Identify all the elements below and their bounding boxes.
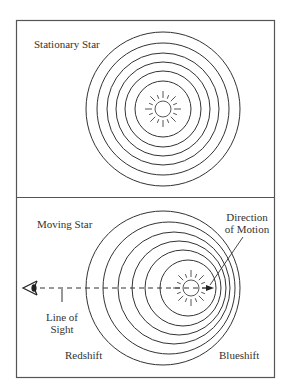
wavefront-circle — [125, 71, 201, 147]
wavefront-circle — [97, 43, 229, 175]
line-of-sight-label-line2: Sight — [40, 323, 84, 335]
redshift-label: Redshift — [65, 349, 102, 361]
line-of-sight-label-line1: Line of — [40, 311, 84, 323]
stationary-wavefronts — [86, 32, 240, 186]
line-of-sight-label: Line of Sight — [40, 311, 84, 335]
moving-wavefronts — [86, 211, 240, 365]
direction-label-line1: Direction — [222, 211, 272, 223]
moving-star-label: Moving Star — [37, 218, 92, 230]
blueshift-label: Blueshift — [219, 349, 259, 361]
star-icon — [145, 91, 181, 127]
wavefront-circle — [116, 62, 210, 156]
direction-of-motion-label: Direction of Motion — [222, 211, 272, 235]
direction-label-line2: of Motion — [222, 223, 272, 235]
wavefront-circle — [135, 81, 191, 137]
wavefront-circle — [86, 211, 240, 365]
arrow-right-icon — [206, 285, 214, 291]
stationary-star-label: Stationary Star — [34, 38, 100, 50]
wavefront-circle — [86, 32, 240, 186]
eye-icon — [23, 281, 37, 295]
wavefront-circle — [107, 53, 219, 165]
